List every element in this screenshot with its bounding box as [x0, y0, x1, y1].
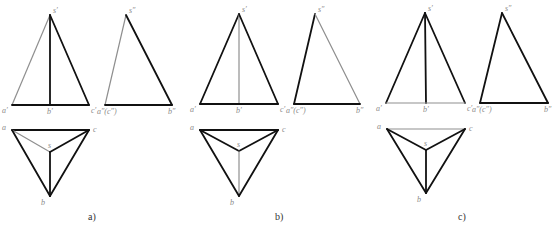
- vertex-label-a: a″(c″): [97, 107, 117, 116]
- vertex-label-s: s′: [428, 4, 433, 13]
- top-view-c: acsb: [377, 122, 473, 204]
- vertex-label-a: a′: [2, 106, 8, 115]
- side-view-a: s″a″(c″)b″: [97, 6, 176, 116]
- edge-ab: [12, 130, 50, 196]
- side-view-c: s″a″(c″)b″: [472, 4, 552, 114]
- vertex-label-a: a: [190, 123, 194, 132]
- vertex-label-b: b: [41, 198, 45, 207]
- edge-sb: [502, 13, 548, 103]
- panel-caption: c): [458, 211, 466, 223]
- vertex-label-s: s: [48, 141, 51, 150]
- side-view-b: s″a″(c″)b″: [286, 5, 364, 115]
- vertex-label-s: s″: [505, 4, 512, 13]
- edge-sb: [425, 13, 426, 103]
- vertex-label-s: s: [237, 140, 240, 149]
- vertex-label-c: c: [93, 125, 97, 134]
- vertex-label-a: a′: [376, 104, 382, 113]
- panel-c: s′a′b′c′s″a″(c″)b″acsbc): [376, 4, 552, 223]
- edge-sb: [126, 15, 172, 105]
- vertex-label-c: c′: [280, 105, 286, 114]
- edge-sa: [200, 14, 239, 104]
- edge-sa: [386, 13, 425, 103]
- vertex-label-a: a: [377, 122, 381, 131]
- panel-caption: a): [88, 211, 96, 223]
- edge-sb: [315, 14, 360, 104]
- vertex-label-a: a: [2, 123, 6, 132]
- edge-sa: [105, 15, 126, 105]
- pyramid-projection-diagram: s′a′b′c′s″a″(c″)b″acsba) s′a′b′c′s″a″(c″…: [0, 0, 557, 230]
- edge-sa: [12, 15, 50, 105]
- vertex-label-b: b: [417, 195, 421, 204]
- vertex-label-b: b′: [236, 106, 242, 115]
- top-view-b: acsb: [190, 123, 286, 207]
- vertex-label-b: b″: [168, 107, 176, 116]
- vertex-label-b: b″: [356, 106, 364, 115]
- vertex-label-b: b′: [423, 105, 429, 114]
- vertex-label-c: c: [282, 125, 286, 134]
- edge-cb: [50, 130, 89, 196]
- vertex-label-a: a″(c″): [472, 105, 492, 114]
- vertex-label-s: s: [424, 139, 427, 148]
- edge-sa: [294, 14, 315, 104]
- vertex-label-b: b′: [47, 107, 53, 116]
- vertex-label-s: s″: [318, 5, 325, 14]
- panel-a: s′a′b′c′s″a″(c″)b″acsba): [2, 6, 176, 223]
- front-view-a: s′a′b′c′: [2, 6, 97, 116]
- edge-sc: [50, 15, 89, 105]
- top-view-a: acsb: [2, 123, 97, 207]
- vertex-label-c: c: [469, 124, 473, 133]
- vertex-label-s: s′: [242, 5, 247, 14]
- panel-caption: b): [275, 211, 283, 223]
- vertex-label-c: c′: [91, 106, 97, 115]
- edge-sc: [425, 13, 465, 103]
- edge-sc: [239, 14, 278, 104]
- vertex-label-b: b″: [544, 105, 552, 114]
- vertex-label-a: a′: [190, 105, 196, 114]
- edge-sa: [480, 13, 502, 103]
- panel-b: s′a′b′c′s″a″(c″)b″acsbb): [190, 5, 364, 223]
- vertex-label-b: b: [230, 198, 234, 207]
- vertex-label-s: s′: [53, 6, 58, 15]
- vertex-label-s: s″: [129, 6, 136, 15]
- front-view-c: s′a′b′c′: [376, 4, 473, 114]
- vertex-label-a: a″(c″): [286, 106, 306, 115]
- front-view-b: s′a′b′c′: [190, 5, 286, 115]
